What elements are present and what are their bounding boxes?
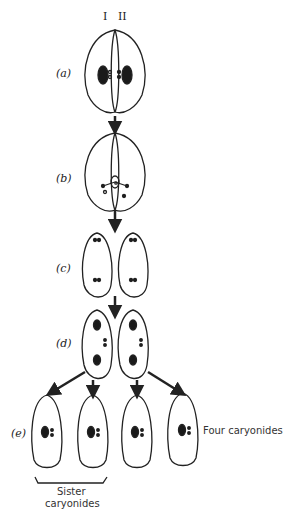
stage-label-d: (d) bbox=[56, 337, 72, 350]
diagram-canvas bbox=[0, 0, 283, 519]
stage-d-cells bbox=[82, 310, 148, 379]
stage-c-exconjugants bbox=[83, 233, 148, 297]
macronucleus bbox=[98, 66, 108, 84]
stage-label-c: (c) bbox=[56, 262, 71, 275]
sister-bracket bbox=[35, 477, 107, 483]
arrow-diag bbox=[148, 372, 180, 392]
column-label-II: II bbox=[118, 10, 127, 23]
stage-label-b: (b) bbox=[56, 172, 72, 185]
sister-label-line1: Sister bbox=[57, 486, 86, 497]
stage-e-caryonides bbox=[32, 393, 198, 468]
macronucleus bbox=[122, 66, 132, 84]
stage-a-conjugants bbox=[85, 30, 145, 113]
stage-b-conjugants bbox=[85, 133, 145, 211]
stage-label-e: (e) bbox=[11, 427, 26, 440]
stage-label-a: (a) bbox=[56, 67, 71, 80]
four-caryonides-label: Four caryonides bbox=[203, 425, 283, 436]
arrow-diag bbox=[52, 372, 85, 392]
column-label-I: I bbox=[103, 10, 107, 23]
sister-label-line2: caryonides bbox=[45, 498, 100, 509]
